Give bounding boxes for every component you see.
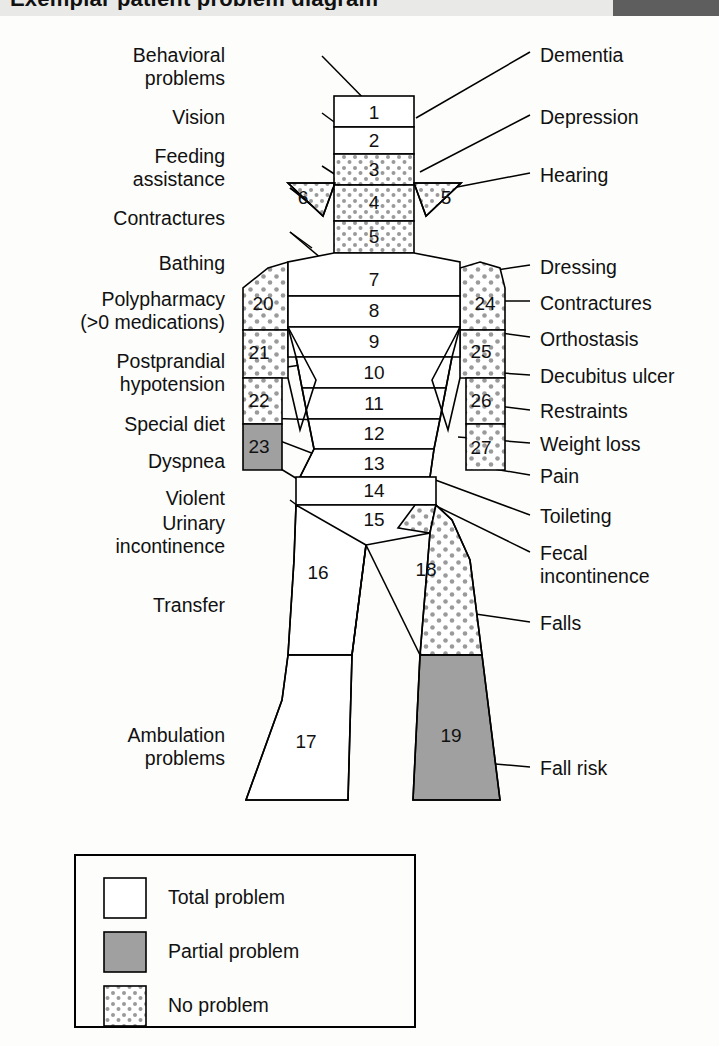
segment-number-5-ear-right: 5 [426, 188, 466, 207]
segment-number-5: 5 [354, 227, 394, 246]
diagram-page: Exemplar patient problem diagram [0, 0, 719, 1046]
label-hearing: Hearing [540, 164, 608, 187]
segment-number-11: 11 [354, 394, 394, 413]
segment-number-9: 9 [354, 332, 394, 351]
label-fecal-incontinence: Fecalincontinence [540, 542, 650, 588]
label-decubitus-ulcer: Decubitus ulcer [540, 365, 674, 388]
label-violent: Violent [40, 487, 225, 510]
segment-number-1: 1 [354, 103, 394, 122]
segment-number-17: 17 [286, 732, 326, 751]
legend-label-total-problem: Total problem [168, 886, 285, 909]
segment-number-10: 10 [354, 363, 394, 382]
legend-swatch-none [104, 986, 146, 1026]
segment-number-20: 20 [243, 294, 283, 313]
label-transfer: Transfer [40, 594, 225, 617]
segment-number-23: 23 [239, 437, 279, 456]
label-vision: Vision [40, 106, 225, 129]
label-dyspnea: Dyspnea [40, 450, 225, 473]
segment-17 [246, 655, 352, 800]
label-special-diet: Special diet [40, 413, 225, 436]
segment-number-4: 4 [354, 193, 394, 212]
legend-swatch-total [104, 878, 146, 918]
segment-number-19: 19 [431, 726, 471, 745]
label-depression: Depression [540, 106, 639, 129]
segment-number-12: 12 [354, 424, 394, 443]
label-polypharmacy: Polypharmacy(>0 medications) [10, 288, 225, 334]
segment-number-8: 8 [354, 301, 394, 320]
label-pain: Pain [540, 465, 579, 488]
segment-number-7: 7 [354, 270, 394, 289]
label-dressing: Dressing [540, 256, 617, 279]
segment-number-27: 27 [461, 438, 501, 457]
label-falls: Falls [540, 612, 581, 635]
label-ambulation-problems: Ambulationproblems [30, 724, 225, 770]
segment-number-26: 26 [461, 391, 501, 410]
label-bathing: Bathing [40, 252, 225, 275]
segment-number-24: 24 [465, 294, 505, 313]
segment-number-13: 13 [354, 454, 394, 473]
label-orthostasis: Orthostasis [540, 328, 639, 351]
label-contractures-right: Contractures [540, 292, 652, 315]
label-toileting: Toileting [540, 505, 612, 528]
segment-number-21: 21 [239, 343, 279, 362]
label-contractures-left: Contractures [30, 207, 225, 230]
leg-right [413, 505, 500, 800]
segment-number-18: 18 [406, 560, 446, 579]
label-weight-loss: Weight loss [540, 433, 640, 456]
leg-left [246, 505, 366, 800]
label-behavioral-problems: Behavioralproblems [40, 44, 225, 90]
label-urinary-incontinence: Urinaryincontinence [25, 512, 225, 558]
segment-number-15: 15 [354, 510, 394, 529]
segment-number-16: 16 [298, 563, 338, 582]
legend-label-partial-problem: Partial problem [168, 940, 299, 963]
label-fall-risk: Fall risk [540, 757, 607, 780]
segment-number-2: 2 [354, 131, 394, 150]
label-feeding-assistance: Feedingassistance [40, 145, 225, 191]
segment-number-3: 3 [354, 160, 394, 179]
label-postprandial-hypotension: Postprandialhypotension [30, 350, 225, 396]
legend-swatch-partial [104, 932, 146, 972]
segment-number-22: 22 [239, 391, 279, 410]
label-restraints: Restraints [540, 400, 628, 423]
legend-label-no-problem: No problem [168, 994, 269, 1017]
label-dementia: Dementia [540, 44, 623, 67]
segment-number-14: 14 [354, 481, 394, 500]
segment-number-25: 25 [461, 342, 501, 361]
segment-number-6-ear-left: 6 [283, 188, 323, 207]
